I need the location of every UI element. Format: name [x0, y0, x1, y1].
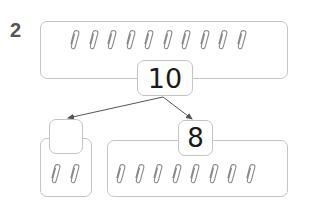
- paperclip-icon: [70, 163, 80, 185]
- arrow-icon: [163, 97, 192, 119]
- paperclip-icon: [116, 163, 126, 185]
- paperclip-icon: [246, 163, 256, 185]
- paperclip-icon: [190, 163, 200, 185]
- paperclip-icon: [172, 163, 182, 185]
- arrow-icon: [68, 97, 163, 118]
- paperclip-icon: [51, 163, 61, 185]
- part-right-number-box: 8: [178, 120, 213, 156]
- part-left-paperclips: [51, 163, 88, 185]
- paperclip-icon: [209, 163, 219, 185]
- part-right-number: 8: [187, 123, 204, 153]
- paperclip-icon: [227, 163, 237, 185]
- part-left-answer-box[interactable]: [49, 119, 83, 154]
- part-right-paperclips: [116, 163, 264, 185]
- paperclip-icon: [153, 163, 163, 185]
- paperclip-icon: [135, 163, 145, 185]
